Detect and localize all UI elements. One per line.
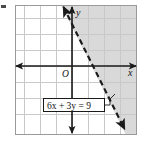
scan-artifact-mark: [1, 5, 6, 8]
equation-label-text: 6x + 3y = 9: [47, 101, 91, 111]
origin-label: O: [62, 69, 69, 79]
x-axis-label: x: [127, 67, 133, 78]
coordinate-plane-figure: 6x + 3y = 9 x y O: [0, 0, 144, 145]
y-axis-label: y: [75, 7, 81, 18]
graph-canvas: 6x + 3y = 9 x y O: [0, 0, 144, 145]
